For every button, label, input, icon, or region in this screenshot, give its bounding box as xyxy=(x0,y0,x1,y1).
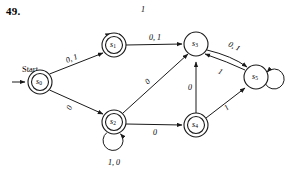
figure-canvas: 49. Start 0, 1 0 1 xyxy=(0,0,294,172)
finite-state-machine-diagram: Start 0, 1 0 1 0, 1 1, 0 0 xyxy=(0,0,294,172)
edge-label-s1-s3: 0, 1 xyxy=(149,33,161,42)
edge-label-s1-self: 1 xyxy=(141,5,145,14)
edge-s5-to-s3: 1 xyxy=(205,54,245,76)
state-s1[interactable]: s1 xyxy=(102,33,126,57)
edge-label-s2-self: 1, 0 xyxy=(108,158,120,167)
edge-label-s4-s5: 1 xyxy=(222,103,231,113)
edge-label-s2-s3: 0 xyxy=(143,77,152,86)
edge-label-s3-s5: 0, 1 xyxy=(227,40,242,53)
edge-label-s0-s2: 0 xyxy=(64,104,74,111)
edge-s3-s5-curve xyxy=(207,50,247,67)
edge-s3-to-s5: 0, 1 xyxy=(207,40,247,67)
edge-label-s2-s4: 0 xyxy=(153,128,157,137)
state-s0[interactable]: s0 xyxy=(28,70,52,94)
edge-s0-to-s1: 0, 1 xyxy=(50,52,104,74)
state-s4[interactable]: s4 xyxy=(184,113,208,137)
edge-s2-to-s4: 0 xyxy=(126,124,182,137)
edge-s2-to-s3: 0 xyxy=(123,54,188,113)
state-s2[interactable]: s2 xyxy=(102,110,126,134)
edge-s0-s2-line xyxy=(50,90,104,114)
edge-label-s5-s3: 1 xyxy=(216,66,224,76)
edge-s2-self-loop: 1, 0 xyxy=(103,133,123,167)
edge-s2-s4-line xyxy=(126,124,182,125)
edge-s4-to-s5: 1 xyxy=(206,88,245,118)
state-s5[interactable]: s5 xyxy=(244,65,268,89)
edge-s1-to-s3: 0, 1 xyxy=(126,33,182,45)
state-s3[interactable]: s3 xyxy=(184,32,208,56)
edge-s1-s3-line xyxy=(126,44,182,45)
edge-s4-to-s3: 0 xyxy=(188,62,196,113)
edge-s2-loop-arc xyxy=(103,133,123,151)
edge-s0-to-s2: 0 xyxy=(50,90,104,114)
edge-s2-s3-line xyxy=(123,54,188,113)
edge-label-s4-s3: 0 xyxy=(188,83,192,92)
